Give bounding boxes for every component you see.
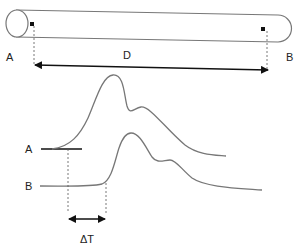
pipe-label-b: B [286,51,293,63]
sensor-b-marker [261,27,265,31]
pipe-end-cap [278,15,292,42]
signal-a-curve [52,75,226,156]
pipe-label-a: A [6,51,14,63]
signal-b-label: B [25,180,32,192]
pipe-bottom-edge [16,37,278,42]
pipe-opening [6,10,28,37]
pipe-signal-diagram: A B D A B ΔT [0,0,297,250]
signal-a-label: A [25,143,33,155]
distance-label: D [123,49,131,61]
delay-label: ΔT [80,233,94,245]
pipe [6,10,292,42]
distance-arrow [35,65,268,70]
pipe-top-edge [16,10,278,15]
sensor-a-marker [30,22,34,26]
signal-b-curve [40,133,262,190]
